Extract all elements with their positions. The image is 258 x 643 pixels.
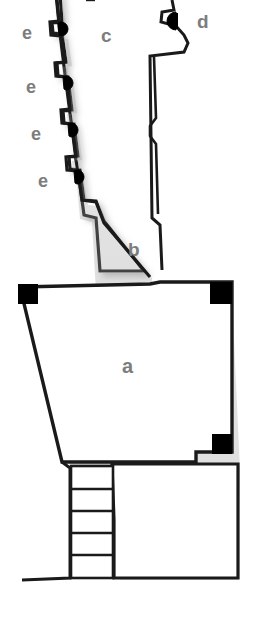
staircase-body bbox=[71, 466, 113, 578]
marker-d-tail bbox=[172, 13, 178, 29]
feature-label-d: d bbox=[197, 12, 209, 31]
room-label-c: c bbox=[101, 26, 112, 45]
corner-block-northwest bbox=[18, 284, 38, 304]
staircase-group bbox=[71, 466, 113, 578]
niche-marker-e1 bbox=[58, 22, 68, 36]
room-label-a: a bbox=[122, 357, 133, 376]
lower-chamber-group bbox=[112, 464, 238, 578]
floor-plan-drawing bbox=[0, 0, 258, 643]
feature-label-e1: e bbox=[22, 24, 32, 43]
feature-label-e3: e bbox=[31, 125, 41, 144]
niche-marker-e3 bbox=[68, 123, 78, 137]
feature-label-e4: e bbox=[38, 172, 48, 191]
floor-plan-figure: a b c d e e e e bbox=[0, 0, 258, 643]
feature-label-e2: e bbox=[26, 78, 36, 97]
niche-marker-e2 bbox=[63, 76, 73, 90]
stair-west-wall-group bbox=[22, 462, 70, 580]
corner-block-southeast bbox=[212, 434, 232, 454]
niche-marker-e4 bbox=[74, 170, 84, 184]
room-label-b: b bbox=[128, 240, 140, 259]
lower-chamber-outline bbox=[112, 464, 238, 578]
corner-block-northeast bbox=[210, 282, 232, 304]
stair-west-wall-line bbox=[22, 462, 70, 580]
